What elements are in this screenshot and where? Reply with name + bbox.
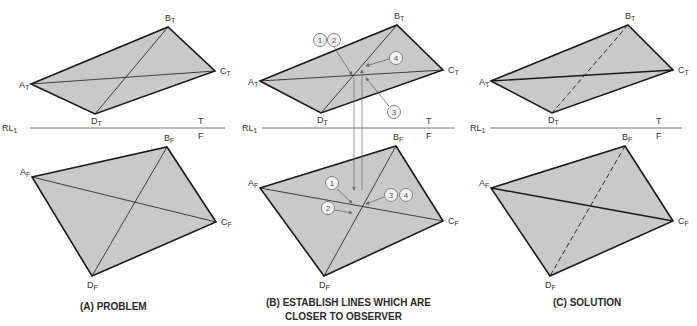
vertex-label-b-front: BF [622, 132, 632, 143]
plane-top-c [491, 25, 673, 113]
callout-number-4: 4 [404, 191, 409, 200]
vertex-label-b-front: BF [393, 132, 403, 143]
callout-number-4: 4 [394, 54, 399, 63]
orthographic-diagram: ATBTCTDTAFBFCFDFRL1TFATBTCTDTAFBFCFDFRL1… [0, 0, 697, 326]
vertex-label-b-top: BT [165, 13, 176, 24]
callout-number-3: 3 [392, 108, 397, 117]
vertex-label-b-top: BT [394, 11, 405, 22]
vertex-label-d-front: DF [87, 280, 98, 291]
callout-number-3: 3 [389, 191, 394, 200]
front-view-tag: F [426, 131, 432, 141]
caption-c: (C) SOLUTION [553, 297, 621, 308]
plane-front-a [32, 147, 216, 276]
callout-number-1: 1 [318, 36, 323, 45]
vertex-label-c-top: CT [220, 66, 232, 77]
vertex-label-c-front: CF [448, 216, 459, 227]
caption-a: (A) PROBLEM [80, 301, 147, 312]
plane-top-b [260, 25, 443, 113]
plane-top-a [31, 27, 215, 114]
callout-number-2: 2 [332, 36, 337, 45]
top-view-tag: T [656, 116, 662, 126]
caption-b-line1: (B) ESTABLISH LINES WHICH ARE [266, 297, 431, 308]
callout-number-1: 1 [330, 179, 335, 188]
reference-line-label: RL1 [470, 123, 486, 134]
top-view-tag: T [198, 116, 204, 126]
vertex-label-d-top: DT [317, 115, 329, 126]
vertex-label-a-front: AF [20, 167, 30, 178]
vertex-label-b-front: BF [164, 133, 174, 144]
reference-line-label: RL1 [2, 123, 18, 134]
vertex-label-a-top: AT [479, 77, 490, 88]
caption-b-line2: CLOSER TO OBSERVER [285, 311, 402, 322]
vertex-label-d-front: DF [545, 280, 556, 291]
vertex-label-c-front: CF [678, 216, 689, 227]
plane-front-c [491, 146, 673, 276]
vertex-label-c-top: CT [678, 65, 690, 76]
top-view-tag: T [426, 116, 432, 126]
vertex-label-a-front: AF [248, 178, 258, 189]
front-view-tag: F [198, 131, 204, 141]
vertex-label-a-front: AF [479, 178, 489, 189]
vertex-label-d-top: DT [548, 115, 560, 126]
vertex-label-a-top: AT [19, 80, 30, 91]
vertex-label-b-top: BT [625, 11, 636, 22]
vertex-label-d-front: DF [319, 280, 330, 291]
front-view-tag: F [656, 131, 662, 141]
vertex-label-d-top: DT [91, 116, 103, 127]
plane-front-b [260, 146, 443, 276]
vertex-label-c-front: CF [221, 217, 232, 228]
vertex-label-c-top: CT [448, 65, 460, 76]
reference-line-label: RL1 [242, 123, 258, 134]
vertex-label-a-top: AT [248, 77, 259, 88]
callout-number-2: 2 [326, 204, 331, 213]
